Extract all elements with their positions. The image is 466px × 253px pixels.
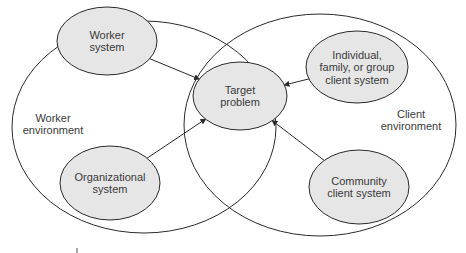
- svg-text:Client: Client: [397, 108, 425, 120]
- arrow-worker-system-to-target-problem: [150, 59, 199, 79]
- individual-client-system-label: Individual,: [332, 49, 382, 61]
- svg-text:environment: environment: [23, 124, 84, 136]
- arrow-individual-client-system-to-target-problem: [284, 79, 308, 85]
- community-client-system-node: Communityclient system: [309, 150, 409, 224]
- individual-client-system-label: family, or group: [320, 61, 395, 73]
- arrow-organizational-system-to-target-problem: [147, 119, 205, 158]
- community-client-system-label: Community: [331, 175, 387, 187]
- worker-system-label: system: [90, 41, 125, 53]
- diagram-canvas: Worker environment Client environment Wo…: [0, 0, 466, 253]
- client-environment-label: Client environment: [381, 108, 442, 132]
- worker-environment-label: Worker environment: [23, 112, 84, 136]
- target-problem-label: Target: [225, 84, 256, 96]
- organizational-system-label: Organizational: [75, 171, 146, 183]
- worker-system-label: Worker: [89, 29, 125, 41]
- organizational-system-label: system: [93, 183, 128, 195]
- svg-text:environment: environment: [381, 120, 442, 132]
- organizational-system-node: Organizationalsystem: [60, 146, 160, 220]
- target-problem-node: Targetproblem: [193, 62, 287, 130]
- individual-client-system-node: Individual,family, or groupclient system: [306, 31, 408, 103]
- svg-text:Worker: Worker: [35, 112, 71, 124]
- community-client-system-label: client system: [327, 187, 391, 199]
- worker-system-node: Workersystem: [57, 7, 157, 75]
- target-problem-label: problem: [220, 96, 260, 108]
- individual-client-system-label: client system: [325, 74, 389, 86]
- arrow-community-client-system-to-target-problem: [272, 121, 324, 161]
